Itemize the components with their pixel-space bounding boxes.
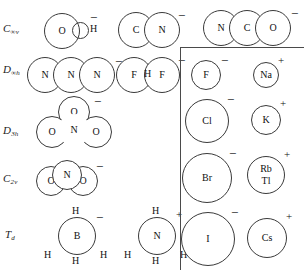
atom-N-right: N	[79, 57, 115, 93]
symmetry-label-c-2v: C2v	[3, 172, 18, 184]
ion-symbol: I	[206, 233, 209, 246]
symmetry-label-d-3h: D3h	[3, 124, 19, 136]
charge-minus-fluoride: −	[221, 54, 228, 67]
ion-symbol: Br	[202, 172, 212, 185]
charge-minus: −	[90, 11, 97, 24]
charge-minus: −	[96, 160, 103, 173]
atom-label-H-right: H	[100, 249, 107, 260]
atom-N-center: N	[138, 217, 176, 255]
ion-hydroxide: O H −	[44, 12, 114, 50]
atom-label-H-bottom: H	[152, 255, 159, 266]
monatomic-ion-panel: F − Cl − Br − I − Na + K + Rb Tl + Cs	[180, 47, 304, 270]
charge-minus-chloride: −	[227, 93, 234, 106]
atom-N-center: N	[52, 160, 82, 190]
atom-label-H-left: H	[44, 249, 51, 260]
atom-label-H-center: H	[144, 68, 151, 79]
atom-label-H-left: H	[124, 249, 131, 260]
atom-N: N	[144, 12, 180, 48]
ion-cyanide: C N −	[118, 9, 198, 51]
atom-N-center: N	[58, 114, 90, 146]
ion-symbol: Cl	[202, 115, 211, 128]
atom-label-H-top: H	[152, 205, 159, 216]
symmetry-label-t-d: Td	[5, 228, 15, 240]
ion-bromide: Br	[182, 153, 232, 203]
charge-plus-potassium: +	[280, 98, 286, 109]
ion-rubidium-thallium: Rb Tl	[247, 156, 285, 194]
charge-plus-cesium: +	[286, 211, 292, 222]
atom-label-H-top: H	[72, 205, 79, 216]
charge-minus: −	[291, 7, 298, 20]
ion-nitrate: O O O N −	[30, 96, 130, 156]
charge-minus: −	[96, 211, 103, 224]
top-edge-artifact	[4, 0, 6, 8]
atom-H-lobe	[72, 22, 89, 39]
ion-symbol-tl: Tl	[262, 175, 271, 188]
ion-symbol: Cs	[262, 232, 273, 245]
ion-symbol: Na	[260, 69, 272, 82]
figure-canvas: C∞v D∞h D3h C2v Td O H − N N N − O O O N…	[0, 0, 304, 270]
ion-cyanate: N C O −	[203, 7, 303, 51]
charge-plus-sodium: +	[278, 55, 284, 66]
ion-fluoride: F	[191, 60, 221, 90]
ion-azide: N N N −	[27, 55, 127, 95]
ion-symbol: K	[262, 114, 269, 127]
atom-B-center: B	[58, 217, 96, 255]
atom-label-H-bottom: H	[72, 255, 79, 266]
ion-iodide: I	[181, 212, 235, 266]
ion-chloride: Cl	[185, 99, 229, 143]
symmetry-label-c-inf-v: C∞v	[3, 22, 19, 34]
ion-borohydride: H B H H H −	[38, 205, 128, 267]
charge-plus-rubidium-thallium: +	[284, 149, 290, 160]
charge-minus-iodide: −	[231, 206, 238, 219]
ion-sodium: Na	[253, 62, 279, 88]
ion-cesium: Cs	[247, 218, 287, 258]
atom-O: O	[255, 10, 291, 46]
symmetry-label-d-inf-h: D∞h	[3, 63, 20, 75]
charge-minus: −	[178, 9, 185, 22]
charge-minus-bromide: −	[229, 147, 236, 160]
charge-minus: −	[94, 95, 101, 108]
ion-nitrite: O O N −	[36, 160, 126, 202]
ion-symbol-rb: Rb	[260, 163, 272, 176]
ion-symbol: F	[203, 69, 209, 82]
ion-potassium: K	[251, 105, 281, 135]
